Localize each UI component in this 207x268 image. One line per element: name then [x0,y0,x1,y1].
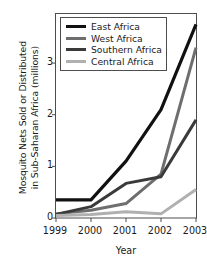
x-tick-label: 2001 [105,225,145,236]
x-tick-label: 2002 [140,225,180,236]
legend-swatch-line-icon [66,48,86,51]
legend-item: West Africa [65,33,162,45]
axis-tick-marks [52,63,196,222]
legend-swatch-line-icon [66,25,86,28]
legend-label: West Africa [91,33,143,45]
legend-label: Central Africa [91,56,154,68]
x-axis-tick-labels: 19992000200120022003 [55,221,197,241]
legend-label: Southern Africa [91,44,162,56]
x-tick-label: 2000 [70,225,110,236]
legend-item: Southern Africa [65,44,162,56]
legend-item: Central Africa [65,56,162,68]
chart-figure: Mosquito Nets Sold or Distributed in Sub… [0,0,207,268]
x-tick-label: 2003 [175,225,207,236]
x-tick-label: 1999 [35,225,75,236]
chart-legend: East Africa West Africa Southern Africa … [60,17,167,71]
x-axis-title: Year [55,245,197,256]
legend-swatch-line-icon [66,37,86,40]
legend-item: East Africa [65,21,162,33]
legend-label: East Africa [91,21,140,33]
legend-swatch-line-icon [66,60,86,63]
